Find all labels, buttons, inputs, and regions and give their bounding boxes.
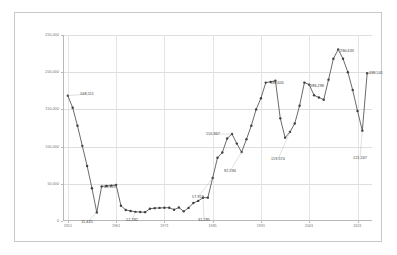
x-tick-label: 1971 bbox=[160, 224, 168, 228]
data-point-marker bbox=[303, 81, 305, 83]
x-tick-mark bbox=[261, 221, 262, 223]
x-tick-label: 1961 bbox=[112, 224, 120, 228]
data-label: 12,282 bbox=[126, 218, 138, 222]
data-point-marker bbox=[236, 142, 238, 144]
data-label: 31,295 bbox=[198, 218, 210, 222]
x-tick-mark bbox=[68, 221, 69, 223]
data-point-marker bbox=[125, 209, 127, 211]
data-point-marker bbox=[173, 208, 175, 210]
y-tick-mark bbox=[61, 221, 63, 222]
data-point-marker bbox=[139, 211, 141, 213]
data-point-marker bbox=[91, 187, 93, 189]
series-line bbox=[63, 35, 372, 221]
data-point-marker bbox=[86, 165, 88, 167]
y-tick-label: 50,000 bbox=[47, 182, 59, 186]
x-tick-label: 1981 bbox=[208, 224, 216, 228]
x-tick-mark bbox=[116, 221, 117, 223]
x-tick-label: 2011 bbox=[353, 224, 361, 228]
y-tick-label: 250,000 bbox=[45, 33, 59, 37]
data-label-leader-line bbox=[278, 132, 290, 159]
data-point-marker bbox=[71, 106, 73, 108]
data-point-marker bbox=[183, 210, 185, 212]
data-label: 116,947 bbox=[206, 132, 220, 136]
data-point-marker bbox=[226, 137, 228, 139]
plot-area: 050,000100,000150,000200,000250,000 1951… bbox=[63, 35, 372, 221]
data-point-marker bbox=[298, 104, 300, 106]
data-point-marker bbox=[342, 58, 344, 60]
data-label: 230,633 bbox=[340, 49, 354, 53]
data-point-marker bbox=[265, 81, 267, 83]
y-tick-label: 150,000 bbox=[45, 107, 59, 111]
data-point-marker bbox=[144, 211, 146, 213]
data-point-marker bbox=[216, 157, 218, 159]
data-label: 11,445 bbox=[81, 220, 93, 224]
x-tick-label: 1991 bbox=[257, 224, 265, 228]
x-tick-mark bbox=[164, 221, 165, 223]
data-point-marker bbox=[197, 200, 199, 202]
x-tick-mark bbox=[309, 221, 310, 223]
data-point-marker bbox=[332, 58, 334, 60]
data-label: 188,605 bbox=[270, 81, 284, 85]
data-point-marker bbox=[255, 108, 257, 110]
data-point-marker bbox=[294, 122, 296, 124]
y-tick-label: 100,000 bbox=[45, 145, 59, 149]
data-point-marker bbox=[100, 185, 102, 187]
data-point-marker bbox=[149, 208, 151, 210]
x-tick-label: 1951 bbox=[64, 224, 72, 228]
data-point-marker bbox=[207, 196, 209, 198]
data-point-marker bbox=[158, 207, 160, 209]
data-point-marker bbox=[168, 206, 170, 208]
data-point-marker bbox=[129, 210, 131, 212]
data-label-leader-line bbox=[360, 131, 362, 158]
data-point-marker bbox=[318, 96, 320, 98]
data-point-marker bbox=[250, 125, 252, 127]
data-label: 198,541 bbox=[369, 71, 383, 75]
data-point-marker bbox=[313, 94, 315, 96]
x-tick-mark bbox=[213, 221, 214, 223]
x-tick-label: 2001 bbox=[305, 224, 313, 228]
data-point-marker bbox=[279, 117, 281, 119]
y-tick-label: 0 bbox=[57, 219, 59, 223]
data-point-marker bbox=[327, 78, 329, 80]
data-point-marker bbox=[323, 99, 325, 101]
data-point-marker bbox=[221, 151, 223, 153]
data-point-marker bbox=[245, 138, 247, 140]
data-label-leader-line bbox=[203, 198, 204, 220]
data-point-marker bbox=[163, 207, 165, 209]
data-point-marker bbox=[284, 136, 286, 138]
data-point-marker bbox=[178, 206, 180, 208]
data-label: 168,511 bbox=[80, 92, 94, 96]
data-point-marker bbox=[81, 145, 83, 147]
data-point-marker bbox=[120, 205, 122, 207]
data-label: 92,594 bbox=[224, 169, 236, 173]
chart-frame: 050,000100,000150,000200,000250,000 1951… bbox=[14, 12, 382, 242]
data-label: 48,619 bbox=[104, 185, 116, 189]
data-point-marker bbox=[347, 71, 349, 73]
y-tick-label: 200,000 bbox=[45, 70, 59, 74]
data-point-marker bbox=[356, 110, 358, 112]
data-label: 121,267 bbox=[353, 156, 367, 160]
data-point-marker bbox=[187, 207, 189, 209]
data-point-marker bbox=[351, 89, 353, 91]
data-label: 119,574 bbox=[271, 157, 285, 161]
data-point-marker bbox=[76, 125, 78, 127]
data-label: 57,913 bbox=[192, 195, 204, 199]
data-point-marker bbox=[260, 97, 262, 99]
x-tick-mark bbox=[358, 221, 359, 223]
data-point-marker bbox=[154, 207, 156, 209]
data-point-marker bbox=[192, 202, 194, 204]
data-label: 183,298 bbox=[310, 84, 324, 88]
